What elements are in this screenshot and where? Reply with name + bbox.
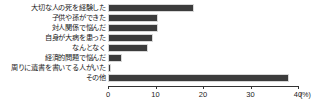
category-label: その他 [0,73,108,83]
category-label: 自身が大病を患った [0,33,108,43]
category-label: 大切な人の死を経験した [0,3,108,13]
bar-4 [108,44,148,52]
bar-5 [108,54,122,62]
chart-row: なんとなく [0,43,320,53]
x-tick [108,86,109,89]
category-label: なんとなく [0,43,108,53]
plot-area: 大切な人の死を経験した 子供や孫ができた 対人関係で悩んだ 自身が大病を患った … [0,0,320,110]
x-tick [156,86,157,89]
bar-0 [108,4,194,12]
category-label: 対人関係で悩んだ [0,23,108,33]
chart-row: 自身が大病を患った [0,33,320,43]
x-tick-label: 20 [191,90,215,100]
x-axis-unit-label: (%) [300,90,311,100]
category-label: 子供や孫ができた [0,13,108,23]
x-tick-label: 0 [96,90,120,100]
x-tick [203,86,204,89]
bar-1 [108,14,158,22]
category-label: 周りに遺書を書いてる人がいた [0,63,108,73]
chart-row: 対人関係で悩んだ [0,23,320,33]
x-tick [298,86,299,89]
bar-7 [108,74,289,82]
category-label: 経済的問題で悩んだ [0,53,108,63]
bar-6 [108,64,111,72]
bar-chart: 大切な人の死を経験した 子供や孫ができた 対人関係で悩んだ 自身が大病を患った … [0,0,320,110]
chart-row: 経済的問題で悩んだ [0,53,320,63]
x-tick [251,86,252,89]
bar-2 [108,24,158,32]
x-tick-label: 30 [239,90,263,100]
chart-row: 子供や孫ができた [0,13,320,23]
bar-3 [108,34,153,42]
x-tick-label: 10 [144,90,168,100]
chart-row: 大切な人の死を経験した [0,3,320,13]
chart-row: 周りに遺書を書いてる人がいた [0,63,320,73]
chart-row: その他 [0,73,320,83]
